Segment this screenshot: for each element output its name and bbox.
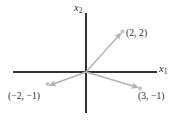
point-label-neg2-neg1: (−2, −1) xyxy=(8,92,40,102)
vector-arrow-neg2-neg1 xyxy=(50,72,87,86)
point-marker-neg2-neg1 xyxy=(46,82,50,86)
x2-axis-label: x2 xyxy=(74,3,82,15)
vector-arrow-2-2 xyxy=(86,33,121,72)
x1-axis-label: x1 xyxy=(159,64,167,76)
point-label-3-neg1: (3, −1) xyxy=(138,92,165,102)
x1-axis-label-subscript: 1 xyxy=(164,67,168,76)
vector-arrow-3-neg1 xyxy=(86,72,138,88)
vector-arrows xyxy=(50,33,139,88)
x2-axis-label-subscript: 2 xyxy=(79,6,83,15)
point-label-2-2: (2, 2) xyxy=(126,29,147,39)
point-marker-2-2 xyxy=(121,30,125,34)
point-marker-3-neg1 xyxy=(138,87,142,91)
vector-plot-figure: x2 x1 (2, 2) (3, −1) (−2, −1) xyxy=(0,0,181,123)
plot-canvas xyxy=(0,0,181,123)
